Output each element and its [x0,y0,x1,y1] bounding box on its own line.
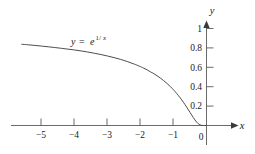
x-tick-label: −2 [135,130,145,140]
x-tick-labels: −5 −4 −3 −2 −1 0 [36,130,204,142]
x-axis-arrowhead [231,122,239,128]
equation-lhs: y [70,36,76,47]
y-tick-label: 0.2 [190,101,202,111]
equation-base: e [90,36,95,47]
x-tick-label: −5 [36,130,46,140]
function-curve [22,44,206,125]
x-axis-label: x [239,120,245,131]
x-tick-label-origin: 0 [199,132,204,142]
y-tick-marks [207,29,214,107]
x-tick-marks [41,119,173,126]
y-tick-label: 0.6 [190,63,202,73]
plot-canvas: x −5 −4 −3 −2 −1 0 y [0,0,255,154]
x-tick-label: −4 [69,130,79,140]
x-tick-label: −1 [168,130,178,140]
equation-exponent-denominator: x [102,34,106,41]
y-axis-arrowhead [203,21,209,29]
function-plot-figure: x −5 −4 −3 −2 −1 0 y [0,0,255,154]
curve-equation-annotation: y = e 1 / x [70,34,106,48]
y-tick-label: 0.4 [190,82,202,92]
y-tick-label: 1 [197,24,202,34]
x-tick-label: −3 [102,130,112,140]
y-axis-group: y [203,5,214,145]
equation-equals: = [79,36,85,47]
y-axis-label: y [209,5,215,16]
equation-exponent-slash: / [99,34,101,41]
y-tick-labels: 0.2 0.4 0.6 0.8 1 [190,24,202,112]
y-tick-label: 0.8 [190,43,202,53]
